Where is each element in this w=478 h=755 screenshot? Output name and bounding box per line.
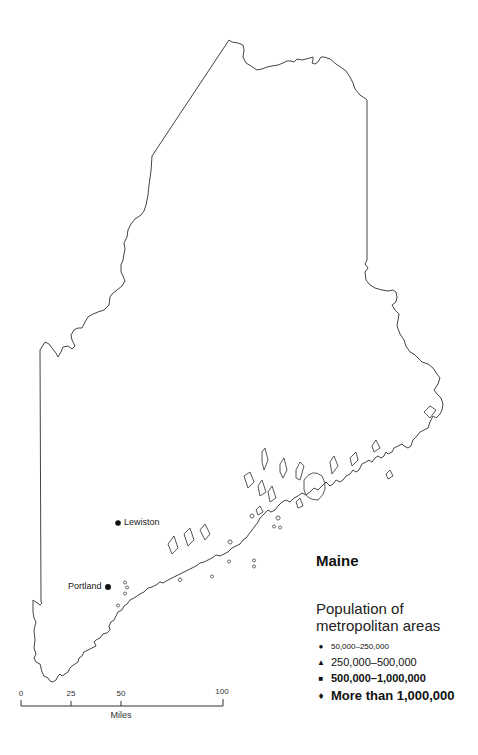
- portland-marker-icon: [105, 584, 111, 590]
- legend-item-500k-1m: ■ 500,000–1,000,000: [316, 672, 426, 684]
- city-label-portland: Portland: [68, 581, 102, 591]
- legend-title: Population of metropolitan areas: [316, 600, 476, 634]
- coastal-islands: [117, 406, 436, 607]
- scale-tick-100: 100: [215, 687, 228, 696]
- scale-tick-25: 25: [67, 689, 76, 698]
- triangle-icon: ▲: [316, 658, 326, 667]
- legend-label: 250,000–500,000: [331, 656, 417, 668]
- legend-label: 50,000–250,000: [331, 642, 389, 651]
- legend-item-over-1m: ♦ More than 1,000,000: [316, 688, 455, 703]
- state-title: Maine: [316, 552, 359, 569]
- diamond-icon: ♦: [316, 690, 326, 701]
- legend-item-250k-500k: ▲ 250,000–500,000: [316, 656, 417, 668]
- scale-tick-0: 0: [19, 689, 23, 698]
- maine-map: [0, 0, 478, 755]
- scale-bar: [21, 699, 223, 706]
- city-label-lewiston: Lewiston: [124, 517, 160, 527]
- circle-icon: ●: [316, 642, 326, 651]
- legend-label: More than 1,000,000: [331, 688, 455, 703]
- lewiston-marker-icon: [115, 520, 121, 526]
- legend-label: 500,000–1,000,000: [331, 672, 426, 684]
- square-icon: ■: [316, 674, 326, 683]
- scale-unit-label: Miles: [110, 710, 131, 720]
- scale-tick-50: 50: [117, 689, 126, 698]
- legend-item-50k-250k: ● 50,000–250,000: [316, 642, 389, 651]
